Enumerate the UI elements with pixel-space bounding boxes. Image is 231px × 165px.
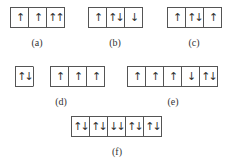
orbital-box: ↑ [167,7,185,28]
orbital-box: ↑ [163,66,181,87]
diagram-label-c: (c) [179,37,209,48]
orbital-box: ↑ [88,7,106,28]
orbital-box: ↑↑ [46,7,65,28]
orbital-box: ↑↓ [15,66,33,87]
orbital-box: ↑ [145,66,163,87]
orbital-box: ↑ [28,7,46,28]
orbital-boxes-f: ↑↓ ↑↓ ↓↓ ↑↓ ↑↓ [71,116,162,136]
orbital-box: ↑↓ [143,116,162,137]
diagram-label-f: (f) [102,146,132,157]
orbital-boxes-d: ↑↓ ↑ ↑ ↑ [15,66,105,86]
orbital-box: ↓ [181,66,199,87]
orbital-boxes-c: ↑ ↑↓ ↑ [167,7,222,27]
orbital-boxes-b: ↑ ↑↓ ↓ [88,7,143,27]
orbital-box: ↑↓ [71,116,89,137]
orbital-box: ↑↓ [106,7,124,28]
orbital-box: ↑↓ [199,66,218,87]
orbital-box: ↓↓ [107,116,125,137]
orbital-boxes-e: ↑ ↑ ↑ ↓ ↑↓ [127,66,218,86]
diagram-label-e: (e) [158,96,188,107]
diagram-label-d: (d) [46,96,76,107]
orbital-box: ↑ [203,7,222,28]
orbital-box: ↑↓ [89,116,107,137]
orbital-box: ↓ [124,7,143,28]
orbital-box: ↑ [127,66,145,87]
orbital-box: ↑ [86,66,105,87]
orbital-box: ↑↓ [125,116,143,137]
orbital-box: ↑ [68,66,86,87]
diagram-label-a: (a) [22,37,52,48]
orbital-box: ↑ [50,66,68,87]
orbital-box: ↑↓ [185,7,203,28]
orbital-box: ↑ [10,7,28,28]
diagram-label-b: (b) [100,37,130,48]
empty-gap [33,66,50,87]
orbital-boxes-a: ↑ ↑ ↑↑ [10,7,65,27]
